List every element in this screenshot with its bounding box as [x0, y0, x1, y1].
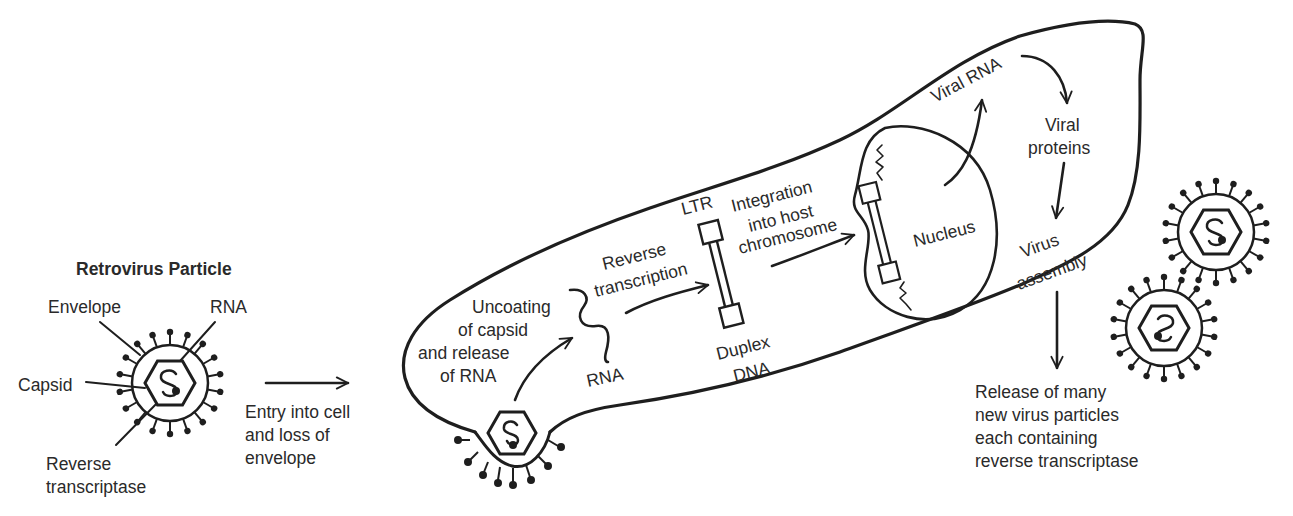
capsid-leader-line — [86, 382, 145, 388]
virus-assembly-label-1: Virus — [1018, 229, 1062, 261]
envelope-label: Envelope — [48, 297, 121, 317]
uncoating-arrow — [515, 338, 572, 400]
duplex-dna — [698, 220, 743, 328]
entry-label-1: Entry into cell — [245, 402, 350, 422]
entry-label-3: envelope — [245, 448, 316, 468]
released-virion-icon-2 — [1110, 274, 1218, 382]
uncoating-label-2: of capsid — [458, 320, 528, 340]
released-virion-icon-1 — [1162, 178, 1270, 286]
retrovirus-particle-panel: Retrovirus Particle Envelope RNA Capsid … — [18, 259, 247, 497]
release-label-3: each containing — [975, 428, 1098, 448]
reverse-transcriptase-label-1: Reverse — [46, 454, 111, 474]
release-label-4: reverse transcriptase — [975, 451, 1138, 471]
capsid-label: Capsid — [18, 375, 72, 395]
uncoating-label-4: of RNA — [440, 366, 497, 386]
nucleus-label: Nucleus — [911, 216, 977, 251]
ltr-box-bottom — [719, 303, 743, 327]
entry-label-2: and loss of — [245, 425, 330, 445]
translation-arrow — [1022, 56, 1067, 103]
retrovirus-lifecycle-diagram: Retrovirus Particle Envelope RNA Capsid … — [0, 0, 1293, 516]
particle-title: Retrovirus Particle — [76, 259, 232, 279]
nucleus-membrane — [854, 126, 997, 319]
ltr-box-top — [698, 220, 722, 244]
viral-proteins-label-2: proteins — [1028, 138, 1091, 158]
uncoating-label-1: Uncoating — [472, 297, 551, 317]
duplex-dna-label-2: DNA — [731, 357, 772, 385]
host-dna-top — [876, 145, 883, 180]
entering-virus — [455, 412, 564, 488]
rna-strand-label: RNA — [585, 364, 626, 391]
assembly-arrow — [1056, 163, 1064, 218]
reverse-transcriptase-label-2: transcriptase — [46, 477, 146, 497]
viral-rna-export-arrow — [945, 100, 982, 185]
uncoating-label-3: and release — [418, 343, 509, 363]
viral-proteins-label-1: Viral — [1045, 115, 1080, 135]
release-label-2: new virus particles — [975, 405, 1119, 425]
envelope-leader-line — [100, 322, 140, 355]
rna-label: RNA — [210, 297, 247, 317]
rna-strand — [570, 290, 608, 362]
virion-icon — [116, 329, 224, 437]
entering-capsid-icon — [488, 412, 536, 454]
host-dna-bottom — [900, 282, 911, 310]
release-label-1: Release of many — [975, 382, 1107, 402]
